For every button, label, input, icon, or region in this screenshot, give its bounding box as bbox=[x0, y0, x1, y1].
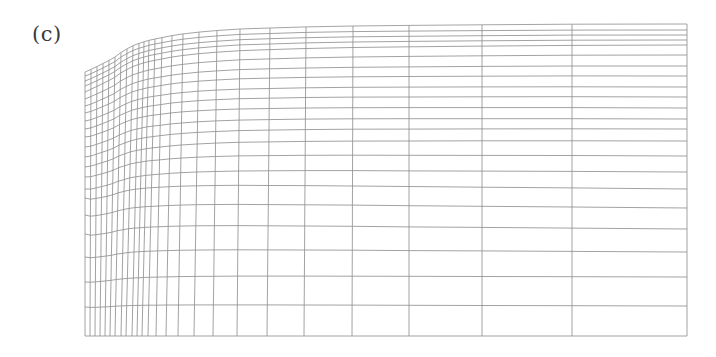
mesh-column-line bbox=[267, 28, 270, 336]
mesh-column-line bbox=[237, 29, 240, 336]
mesh-row-line bbox=[85, 305, 687, 308]
mesh-diagram bbox=[0, 0, 716, 357]
mesh-column-line bbox=[166, 36, 172, 336]
mesh-column-line bbox=[90, 69, 91, 336]
mesh-row-line bbox=[85, 226, 687, 236]
mesh-column-line bbox=[121, 49, 127, 336]
mesh-column-line bbox=[100, 64, 103, 337]
mesh-column-line bbox=[194, 32, 199, 336]
mesh-row-line bbox=[85, 155, 687, 177]
mesh-row-line bbox=[85, 87, 687, 121]
mesh-row-line bbox=[85, 276, 687, 282]
mesh-column-line bbox=[110, 57, 115, 336]
mesh-column-line bbox=[178, 34, 183, 336]
mesh-column-line bbox=[115, 52, 121, 336]
mesh-row-line bbox=[85, 119, 687, 147]
mesh-row-line bbox=[85, 66, 687, 106]
mesh-row-line bbox=[85, 204, 687, 216]
mesh-row-line bbox=[85, 108, 687, 137]
mesh-row-line bbox=[85, 45, 687, 92]
mesh-vertical-lines bbox=[85, 24, 687, 336]
mesh-column-line bbox=[352, 26, 353, 336]
mesh-row-line bbox=[85, 129, 687, 157]
mesh-row-line bbox=[85, 141, 687, 167]
mesh-column-line bbox=[105, 60, 109, 336]
mesh-column-line bbox=[213, 31, 217, 337]
mesh-horizontal-lines bbox=[85, 30, 687, 336]
mesh-row-line bbox=[85, 185, 687, 199]
mesh-row-line bbox=[85, 250, 687, 258]
mesh-column-line bbox=[95, 67, 97, 337]
mesh-column-line bbox=[304, 27, 306, 336]
